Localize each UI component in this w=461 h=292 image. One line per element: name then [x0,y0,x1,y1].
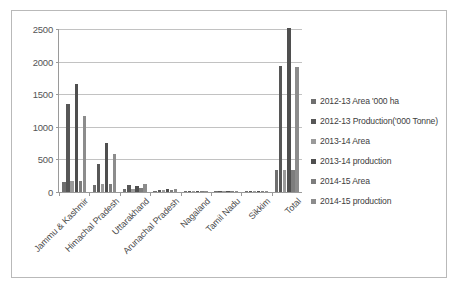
chart-frame: 05001000150020002500 Jammu & KashmirHima… [11,10,447,278]
x-axis-label: Sikkim [247,196,272,221]
legend-item: 2012-13 Production('000 Tonne) [311,111,451,131]
legend-item: 2013-14 production [311,151,451,171]
bar [279,66,282,192]
y-tick-label: 1000 [33,121,53,132]
x-axis-label: Himachal Pradesh [63,196,121,254]
legend-item: 2012-13 Area '000 ha [311,91,451,111]
legend-item: 2014-15 production [311,191,451,211]
bar [283,170,286,192]
chart-legend: 2012-13 Area '000 ha2012-13 Production('… [311,91,451,211]
chart-plot-wrapper: 05001000150020002500 Jammu & KashmirHima… [12,11,448,279]
bar [97,164,100,192]
plot-area: 05001000150020002500 [58,29,302,193]
legend-label: 2013-14 production [320,156,391,166]
legend-item: 2014-15 Area [311,171,451,191]
legend-label: 2013-14 Area [320,136,370,146]
legend-swatch [311,179,316,184]
y-tick-label: 0 [48,187,53,198]
bar [287,28,290,192]
bar [109,184,112,192]
bar [70,181,73,192]
bar [105,143,108,192]
bar-group [89,29,119,192]
bar [275,170,278,192]
x-axis-label: Arunachal Pradesh [121,196,181,256]
bar-groups [59,29,302,192]
bar [79,181,82,192]
bar-group [211,29,241,192]
bar [101,184,104,192]
x-axis-label: Total [283,196,303,216]
legend-swatch [311,199,316,204]
legend-label: 2014-15 Area [320,176,370,186]
x-axis-labels: Jammu & KashmirHimachal PradeshUttarakha… [58,192,301,278]
bar-group [181,29,211,192]
bar-group [120,29,150,192]
bar-group [59,29,89,192]
y-tick-label: 2000 [33,56,53,67]
bar [291,170,294,192]
bar [295,67,298,192]
bar [62,182,65,192]
x-axis-label: Jammu & Kashmir [32,196,90,254]
legend-label: 2014-15 production [320,196,391,206]
bar [113,154,116,192]
legend-swatch [311,99,316,104]
bar-group [241,29,271,192]
legend-swatch [311,119,316,124]
bar [83,116,86,192]
legend-label: 2012-13 Production('000 Tonne) [320,116,438,126]
legend-label: 2012-13 Area '000 ha [320,96,399,106]
bar [75,84,78,192]
bar [127,185,130,192]
bar [93,185,96,192]
legend-swatch [311,139,316,144]
y-tick-label: 2500 [33,24,53,35]
y-tick-label: 1500 [33,89,53,100]
bar-group [272,29,302,192]
bar [66,104,69,192]
bar-group [150,29,180,192]
legend-swatch [311,159,316,164]
y-tick-label: 500 [38,154,53,165]
bar [143,184,146,192]
legend-item: 2013-14 Area [311,131,451,151]
